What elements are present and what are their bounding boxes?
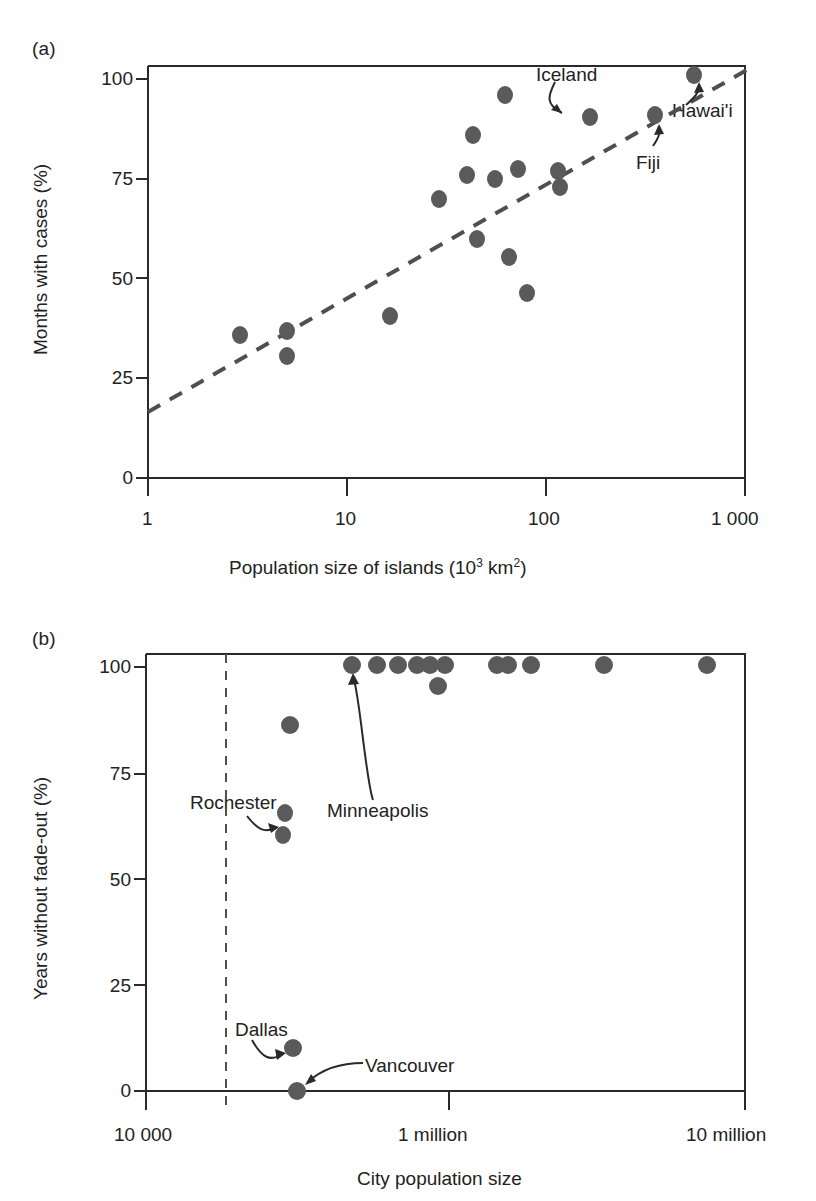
panel-b-data-points — [275, 656, 716, 1100]
panel-b-annotation-arrows — [247, 680, 373, 1082]
data-point — [275, 826, 291, 844]
panel-b-arrowheads — [268, 673, 359, 1085]
arrow-minneapolis — [354, 680, 373, 800]
arrow-vancouver — [308, 1063, 363, 1082]
data-point — [368, 656, 386, 674]
data-point — [343, 656, 361, 674]
data-point — [698, 656, 716, 674]
data-point — [284, 1039, 302, 1057]
panel-b-plot — [0, 0, 816, 1201]
data-point — [595, 656, 613, 674]
data-point — [522, 656, 540, 674]
data-point — [389, 656, 407, 674]
data-point — [436, 656, 454, 674]
data-point — [288, 1082, 306, 1100]
data-point — [499, 656, 517, 674]
data-point — [281, 716, 299, 734]
data-point — [429, 677, 447, 695]
data-point — [277, 804, 293, 822]
